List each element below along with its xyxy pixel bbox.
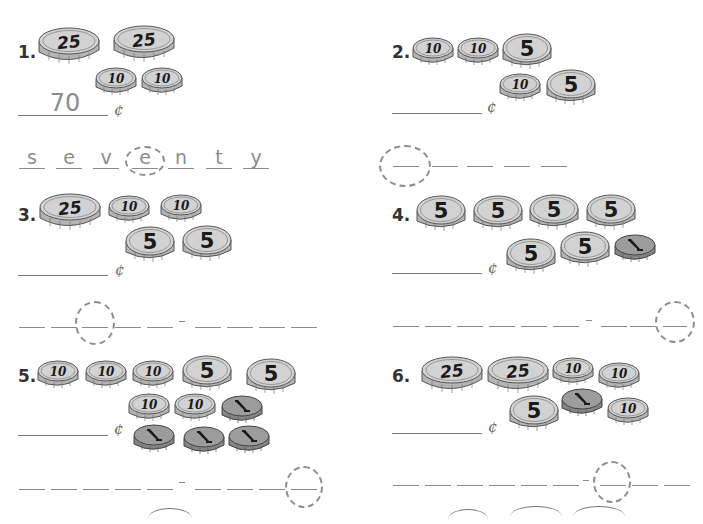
word-hyphen [179,482,185,483]
word-blank[interactable] [393,485,419,486]
word-blank[interactable] [206,168,232,169]
word-blank[interactable] [19,168,45,169]
word-blank[interactable] [521,326,547,327]
nickel-coin: 5 [527,192,581,232]
answer-line[interactable] [18,435,108,436]
penny-coin [220,394,264,426]
svg-text:25: 25 [505,360,531,382]
quarter-coin: 25 [419,355,485,395]
answer-line[interactable] [392,273,482,274]
word-blank[interactable] [195,327,221,328]
problem-number: 3. [18,205,36,225]
dime-coin: 10 [411,36,455,68]
word-blank[interactable] [664,485,690,486]
nickel-coin: 5 [504,236,558,276]
word-blank[interactable] [243,168,269,169]
svg-text:25: 25 [57,197,83,219]
penny-coin [613,233,657,265]
dime-coin: 10 [551,356,595,388]
cent-symbol: ¢ [487,98,497,116]
secret-letter-circle [125,146,165,176]
cropped-coin-edge [148,508,192,524]
word-blank[interactable] [393,166,419,167]
nickel-coin: 5 [414,193,468,233]
dime-coin: 10 [131,359,175,391]
word-blank[interactable] [82,327,108,328]
svg-text:10: 10 [470,42,487,56]
nickel-coin: 5 [500,31,554,71]
word-blank[interactable] [630,326,656,327]
word-blank[interactable] [93,168,119,169]
svg-text:10: 10 [425,42,442,56]
word-blank[interactable] [425,326,451,327]
word-blank[interactable] [663,326,687,327]
word-blank[interactable] [227,327,253,328]
svg-text:5: 5 [520,37,535,61]
word-blank[interactable] [467,166,493,167]
word-blank[interactable] [553,326,579,327]
dime-coin: 10 [456,36,500,68]
word-blank[interactable] [432,166,458,167]
word-blank[interactable] [553,485,579,486]
problem-number: 4. [392,205,410,225]
nickel-coin: 5 [180,223,234,263]
svg-text:5: 5 [200,359,215,383]
svg-text:10: 10 [108,72,125,86]
svg-text:10: 10 [145,365,162,379]
penny-coin [227,424,271,456]
cropped-coin-edge [510,506,562,524]
answer-line[interactable] [392,113,482,114]
word-hyphen [179,321,185,322]
svg-text:25: 25 [439,360,465,382]
word-blank[interactable] [291,489,317,490]
word-blank[interactable] [601,326,627,327]
svg-text:5: 5 [491,199,506,223]
problem-number: 5. [18,366,36,386]
word-blank[interactable] [259,489,285,490]
dime-coin: 10 [498,72,542,104]
word-blank[interactable] [227,489,253,490]
dime-coin: 10 [107,194,151,226]
cent-symbol: ¢ [488,259,498,277]
word-blank[interactable] [632,485,658,486]
word-blank[interactable] [19,489,45,490]
secret-letter-circle [655,301,695,343]
word-blank[interactable] [600,485,626,486]
word-blank[interactable] [457,326,483,327]
word-blank[interactable] [168,168,194,169]
penny-coin [182,425,226,457]
quarter-coin: 25 [36,26,102,66]
word-blank[interactable] [83,489,109,490]
word-blank[interactable] [147,327,173,328]
word-blank[interactable] [115,327,141,328]
word-blank[interactable] [541,166,567,167]
word-blank[interactable] [259,327,285,328]
secret-letter-circle [593,461,631,503]
answer-line[interactable] [18,275,108,276]
dime-coin: 10 [606,396,650,428]
word-blank[interactable] [195,489,221,490]
word-blank[interactable] [51,327,77,328]
answer-line[interactable] [18,115,108,116]
word-blank[interactable] [457,485,483,486]
svg-text:5: 5 [264,362,279,386]
word-blank[interactable] [56,168,82,169]
word-blank[interactable] [489,485,515,486]
word-blank[interactable] [425,485,451,486]
word-blank[interactable] [504,166,530,167]
svg-text:5: 5 [604,198,619,222]
word-blank[interactable] [115,489,141,490]
word-hyphen [586,320,592,321]
cent-symbol: ¢ [114,420,124,438]
word-blank[interactable] [147,489,173,490]
svg-text:5: 5 [527,399,542,423]
word-blank[interactable] [19,327,45,328]
word-blank[interactable] [393,326,419,327]
word-blank[interactable] [521,485,547,486]
word-blank[interactable] [489,326,515,327]
word-blank[interactable] [51,489,77,490]
answer-line[interactable] [392,433,482,434]
dime-coin: 10 [173,392,217,424]
secret-letter-circle [285,466,323,508]
word-blank[interactable] [291,327,317,328]
